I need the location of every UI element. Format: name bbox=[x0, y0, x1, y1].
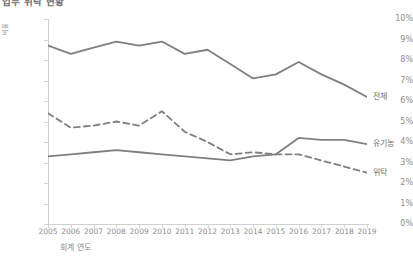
x-axis-tick-mark bbox=[321, 224, 322, 228]
series-label-total: 전체 bbox=[373, 92, 387, 101]
y-axis-tick-label: 2% bbox=[371, 179, 413, 187]
x-axis-tick-mark bbox=[367, 224, 368, 228]
y-axis-tick-label: 3% bbox=[371, 159, 413, 167]
x-axis-tick-mark bbox=[48, 224, 49, 228]
y-axis-title: 비율 bbox=[1, 9, 8, 49]
line-chart: 업무 위탁 현황 비율 10%9%8%7%6%5%4%3%2%1%0% 2005… bbox=[0, 0, 413, 260]
x-axis-tick-mark bbox=[344, 224, 345, 228]
y-axis-tick-label: 5% bbox=[371, 118, 413, 126]
y-axis-tick-label: 9% bbox=[371, 36, 413, 44]
x-axis-tick-mark bbox=[139, 224, 140, 228]
x-axis-tick-mark bbox=[276, 224, 277, 228]
x-axis-tick-mark bbox=[162, 224, 163, 228]
series-label-contract: 위탁 bbox=[373, 168, 387, 177]
series-line-전체 bbox=[48, 42, 367, 97]
y-axis-tick-label: 8% bbox=[371, 56, 413, 64]
plot-area bbox=[48, 19, 367, 224]
y-axis-tick-label: 7% bbox=[371, 77, 413, 85]
x-axis-title: 회계 연도 bbox=[60, 241, 91, 252]
series-line-유기농 bbox=[48, 138, 367, 161]
y-axis-tick-label: 10% bbox=[371, 15, 413, 23]
x-axis-tick-mark bbox=[208, 224, 209, 228]
x-axis-tick-mark bbox=[253, 224, 254, 228]
x-axis-tick-label: 2019 bbox=[352, 228, 382, 236]
x-axis-tick-mark bbox=[116, 224, 117, 228]
x-axis-tick-mark bbox=[185, 224, 186, 228]
x-axis-tick-mark bbox=[71, 224, 72, 228]
series-label-organic: 유기농 bbox=[373, 139, 394, 148]
x-axis-tick-mark bbox=[230, 224, 231, 228]
series-line-위탁 bbox=[48, 111, 367, 173]
y-axis-tick-label: 1% bbox=[371, 200, 413, 208]
x-axis-tick-mark bbox=[94, 224, 95, 228]
x-axis-tick-mark bbox=[299, 224, 300, 228]
y-axis-tick-label: 0% bbox=[371, 220, 413, 228]
chart-title: 업무 위탁 현황 bbox=[2, 0, 64, 8]
